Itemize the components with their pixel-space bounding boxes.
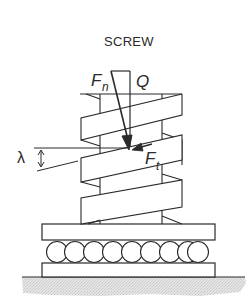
lead-angle-label: λ [17,149,25,166]
screw-diagram: SCREW [0,0,252,299]
base-plate [42,263,215,277]
diagram-title: SCREW [104,34,154,49]
load-plate [42,224,215,240]
normal-force-subscript: n [102,80,109,94]
ground [22,277,246,296]
screw-thread [80,94,182,224]
axial-load-label: Q [136,72,149,91]
roller-bearing [47,242,209,263]
